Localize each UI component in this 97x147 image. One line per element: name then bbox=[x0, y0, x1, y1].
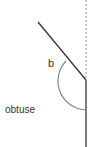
upper-ray bbox=[38, 22, 86, 80]
angle-diagram: b obtuse bbox=[0, 0, 97, 147]
angle-arc bbox=[58, 61, 86, 110]
angle-label: b bbox=[48, 57, 54, 69]
angle-type-label: obtuse bbox=[5, 104, 35, 115]
